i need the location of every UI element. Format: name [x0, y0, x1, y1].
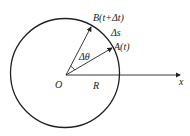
label-A: A(t) [113, 41, 130, 53]
diagram-canvas: B(t+Δt) Δs A(t) Δθ O R x [0, 0, 190, 136]
angle-arc [71, 66, 75, 70]
label-O: O [55, 79, 62, 90]
label-delta-theta: Δθ [78, 51, 90, 62]
circular-motion-diagram: B(t+Δt) Δs A(t) Δθ O R x [0, 0, 190, 136]
label-x: x [178, 76, 184, 87]
label-R: R [92, 80, 99, 91]
label-delta-s: Δs [110, 27, 121, 38]
label-B: B(t+Δt) [93, 12, 125, 24]
circle [11, 19, 120, 128]
